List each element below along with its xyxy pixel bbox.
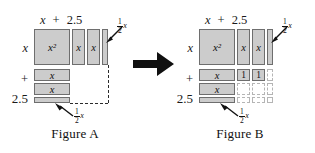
tile-x-horizontal-1: x <box>34 69 70 81</box>
placeholder-r3-c3 <box>267 97 273 103</box>
side-label-operator: + <box>167 73 193 86</box>
placeholder-r1-c3 <box>267 69 273 81</box>
tile-x-vertical-1-label: x <box>73 42 84 53</box>
top-label-term2: 2.5 <box>232 13 248 28</box>
side-label-term2: 2.5 <box>0 92 28 105</box>
side-label-operator: + <box>2 73 28 86</box>
figure-b-caption: Figure B <box>165 126 315 142</box>
tile-x-squared: x² <box>199 29 235 65</box>
fraction-variable: x <box>80 111 84 120</box>
tile-x-vertical-2: x <box>252 29 265 65</box>
side-label-term2: 2.5 <box>163 92 193 105</box>
tile-x-horizontal-1-label: x <box>200 70 234 81</box>
tile-x-vertical-2: x <box>87 29 100 65</box>
arrow-to-half-x-bottom-icon <box>217 102 241 120</box>
tile-x-squared-label: x² <box>35 41 69 53</box>
top-label-term2: 2.5 <box>67 13 83 28</box>
top-label-operator: + <box>218 13 225 28</box>
figure-a: x + 2.5 x + 2.5 x² x x x x <box>0 0 150 153</box>
tile-unit-2: 1 <box>252 69 265 81</box>
side-label-term1: x <box>167 42 193 55</box>
top-label-term1: x <box>40 13 46 28</box>
tile-x-vertical-1: x <box>237 29 250 65</box>
figure-b: x + 2.5 x + 2.5 x² x x x x <box>165 0 315 153</box>
tile-x-vertical-1: x <box>72 29 85 65</box>
placeholder-r2-c1 <box>237 83 250 95</box>
tile-x-horizontal-2: x <box>34 83 70 95</box>
placeholder-r2-c3 <box>267 83 273 95</box>
dashed-right-edge <box>108 65 109 103</box>
arrow-to-half-x-top-icon <box>268 24 290 46</box>
tile-x-vertical-2-label: x <box>88 42 99 53</box>
tile-unit-1: 1 <box>237 69 250 81</box>
figure-b-top-labels: x + 2.5 <box>205 13 247 28</box>
tile-x-horizontal-2-label: x <box>35 84 69 95</box>
arrow-to-half-x-bottom-icon <box>52 102 76 120</box>
figure-a-top-labels: x + 2.5 <box>40 13 82 28</box>
tile-x-vertical-1-label: x <box>238 42 249 53</box>
side-label-term1: x <box>2 42 28 55</box>
top-label-term1: x <box>205 13 211 28</box>
tile-x-horizontal-1: x <box>199 69 235 81</box>
tile-unit-2-label: 1 <box>253 70 264 80</box>
tile-x-vertical-2-label: x <box>253 42 264 53</box>
fraction-variable: x <box>245 111 249 120</box>
tile-x-squared: x² <box>34 29 70 65</box>
tile-x-horizontal-2-label: x <box>200 84 234 95</box>
arrow-to-half-x-top-icon <box>103 24 125 46</box>
tile-x-squared-label: x² <box>200 41 234 53</box>
top-label-operator: + <box>53 13 60 28</box>
tile-unit-1-label: 1 <box>238 70 249 80</box>
tile-x-horizontal-2: x <box>199 83 235 95</box>
tile-x-horizontal-1-label: x <box>35 70 69 81</box>
placeholder-r3-c2 <box>252 97 265 103</box>
placeholder-r2-c2 <box>252 83 265 95</box>
figure-a-caption: Figure A <box>0 126 150 142</box>
algebra-tiles-diagram: x + 2.5 x + 2.5 x² x x x x <box>0 0 315 153</box>
